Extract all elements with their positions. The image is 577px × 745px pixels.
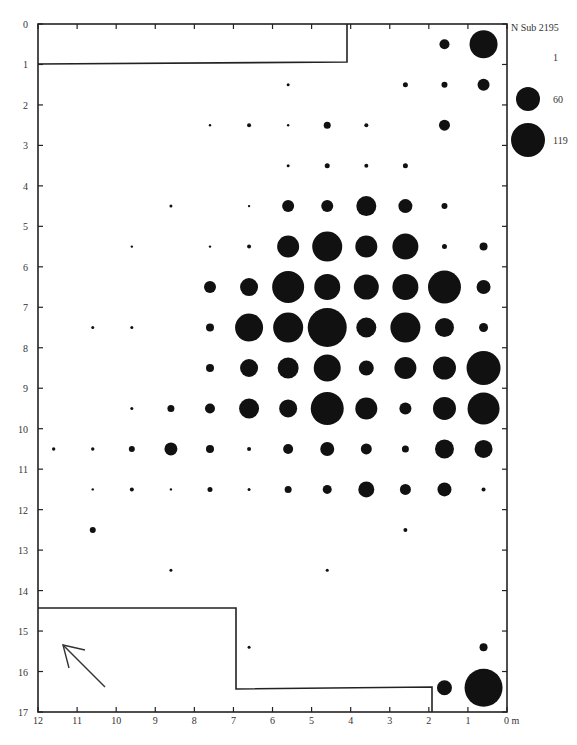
data-point [468, 392, 500, 424]
data-points [52, 30, 503, 706]
data-point [248, 646, 251, 649]
data-point [311, 392, 344, 425]
data-point [442, 244, 447, 249]
data-point [235, 314, 263, 342]
data-point [356, 318, 376, 338]
x-tick-label: 8 [192, 715, 197, 726]
data-point [130, 407, 133, 410]
data-point [435, 318, 454, 337]
data-point [205, 403, 215, 413]
y-tick-label: 6 [23, 262, 28, 273]
data-point [283, 444, 293, 454]
data-point [287, 164, 290, 167]
data-point [477, 280, 491, 294]
data-point [248, 205, 250, 207]
data-point [355, 236, 377, 258]
legend-symbol [511, 123, 545, 157]
data-point [91, 326, 94, 329]
data-point [314, 354, 341, 381]
data-point [207, 487, 212, 492]
data-point [247, 245, 251, 249]
data-point [428, 271, 461, 304]
data-point [478, 79, 490, 91]
data-point [359, 360, 374, 375]
data-point [209, 124, 211, 126]
data-point [323, 485, 332, 494]
data-point [437, 482, 451, 496]
data-point [355, 397, 377, 419]
data-point [475, 440, 493, 458]
x-tick-label: 0 m [504, 715, 520, 726]
data-point [321, 200, 333, 212]
data-point [287, 124, 289, 126]
data-point [441, 82, 447, 88]
data-point [167, 405, 174, 412]
data-point [482, 487, 486, 491]
data-point [248, 488, 251, 491]
legend: N Sub 2195160119 [511, 22, 568, 157]
data-point [206, 364, 214, 372]
north-arrow-icon [63, 645, 105, 687]
y-tick-label: 3 [23, 140, 28, 151]
data-point [239, 398, 259, 418]
data-point [240, 278, 258, 296]
data-point [324, 122, 331, 129]
y-tick-label: 0 [23, 19, 28, 30]
data-point [326, 569, 329, 572]
data-point [403, 82, 408, 87]
data-point [247, 447, 251, 451]
data-point [394, 357, 416, 379]
data-point [433, 397, 456, 420]
data-point [361, 443, 372, 454]
legend-label: 60 [553, 94, 563, 105]
y-tick-label: 9 [23, 383, 28, 394]
x-tick-label: 4 [348, 715, 353, 726]
data-point [312, 232, 342, 262]
data-point [480, 643, 488, 651]
data-point [392, 234, 418, 260]
x-tick-label: 9 [153, 715, 158, 726]
x-tick-label: 5 [309, 715, 314, 726]
data-point [206, 445, 214, 453]
x-tick-label: 2 [426, 715, 431, 726]
y-tick-label: 16 [18, 667, 28, 678]
y-tick-label: 15 [18, 626, 28, 637]
data-point [358, 481, 374, 497]
y-tick-label: 10 [18, 424, 28, 435]
data-point [130, 326, 133, 329]
data-point [129, 446, 135, 452]
legend-title: N Sub 2195 [511, 22, 559, 33]
data-point [354, 275, 379, 300]
data-point [437, 680, 452, 695]
data-point [364, 164, 368, 168]
data-point [287, 83, 290, 86]
y-tick-label: 5 [23, 221, 28, 232]
data-point [403, 528, 407, 532]
data-point [169, 569, 172, 572]
data-point [170, 488, 172, 490]
data-point [320, 442, 334, 456]
y-tick-label: 2 [23, 100, 28, 111]
data-point [314, 274, 340, 300]
data-point [308, 308, 347, 347]
data-point [325, 163, 330, 168]
data-point [441, 203, 447, 209]
x-tick-label: 1 [465, 715, 470, 726]
data-point [398, 199, 412, 213]
legend-label: 119 [553, 135, 568, 146]
data-point [240, 359, 258, 377]
data-point [400, 484, 411, 495]
data-point [439, 120, 450, 131]
legend-label: 1 [553, 52, 558, 63]
data-point [164, 442, 177, 455]
y-tick-label: 8 [23, 343, 28, 354]
distribution-map: 1211109876543210 m 012345678910111213141… [0, 0, 577, 745]
data-point [169, 205, 172, 208]
data-point [402, 445, 409, 452]
data-point [470, 30, 498, 58]
data-point [364, 123, 368, 127]
data-point [399, 402, 411, 414]
data-point [273, 313, 303, 343]
data-point [392, 274, 418, 300]
legend-symbol [516, 87, 540, 111]
